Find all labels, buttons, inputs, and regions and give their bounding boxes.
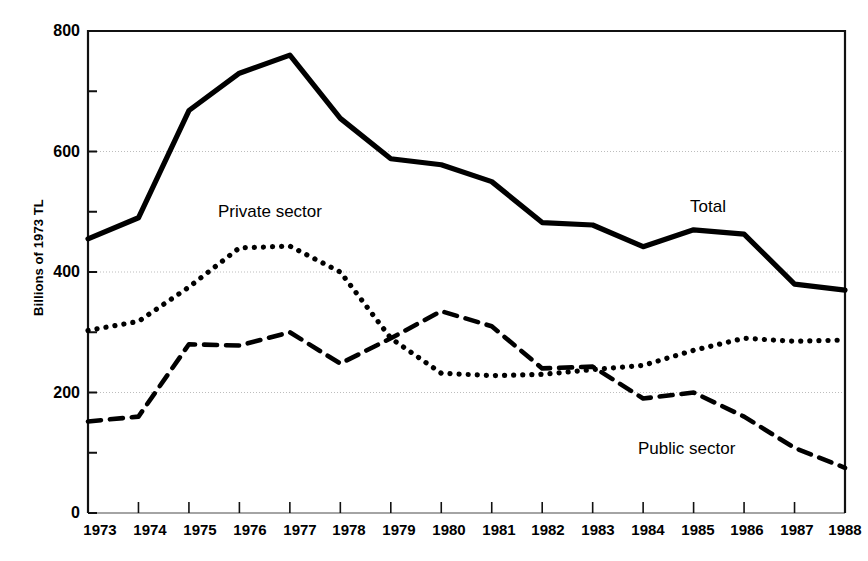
- chart-figure: Billions of 1973 TL 800 600 400 200 0 19…: [0, 0, 868, 561]
- series-line-total: [88, 55, 845, 290]
- series-line-public-sector: [88, 311, 845, 468]
- series-line-private-sector: [88, 246, 845, 376]
- x-axis-ticks: [88, 502, 845, 513]
- plot-area: [0, 0, 868, 561]
- axis-major-ticks: [88, 31, 97, 513]
- caption-fragment: [8, 548, 128, 558]
- gridlines: [88, 152, 845, 514]
- data-series-layer: [88, 55, 845, 468]
